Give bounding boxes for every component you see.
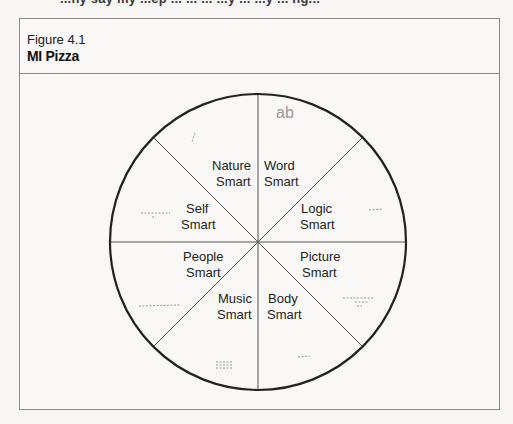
word-icon: ab (276, 104, 294, 121)
svg-text:Smart: Smart (300, 217, 335, 232)
svg-text:Smart: Smart (302, 265, 337, 280)
logic-icon (369, 209, 383, 210)
slice-music-smart: Music Smart (217, 291, 252, 322)
self-icon (141, 213, 170, 217)
svg-text:Picture: Picture (300, 249, 340, 264)
slice-people-smart: People Smart (183, 249, 223, 280)
picture-icon (343, 298, 375, 306)
svg-text:Smart: Smart (267, 307, 302, 322)
slice-word-smart: Word Smart (264, 158, 299, 189)
svg-text:Nature: Nature (212, 158, 251, 173)
svg-text:Smart: Smart (217, 307, 252, 322)
slice-body-smart: Body Smart (267, 291, 302, 322)
svg-text:Logic: Logic (301, 201, 333, 216)
music-icon (216, 362, 232, 368)
nature-icon (192, 133, 195, 142)
svg-text:Smart: Smart (264, 174, 299, 189)
svg-text:People: People (183, 249, 223, 264)
slice-self-smart: Self Smart (181, 201, 216, 232)
svg-text:Self: Self (186, 201, 209, 216)
svg-text:Smart: Smart (186, 265, 221, 280)
slice-picture-smart: Picture Smart (300, 249, 340, 280)
svg-text:Body: Body (268, 291, 298, 306)
svg-text:Smart: Smart (181, 217, 216, 232)
svg-text:Word: Word (264, 158, 295, 173)
body-icon (298, 356, 310, 357)
slice-nature-smart: Nature Smart (212, 158, 251, 189)
slice-labels: Nature Smart Word Smart Logic Smart Pict… (181, 158, 340, 322)
svg-text:ab: ab (276, 104, 294, 121)
svg-text:Music: Music (218, 291, 252, 306)
faint-slice-icons: ab (139, 104, 383, 368)
mi-pizza-diagram: ab Nature Smart Word Smart Logic Smart P… (0, 0, 513, 424)
slice-dividers (110, 94, 406, 390)
slice-logic-smart: Logic Smart (300, 201, 335, 232)
people-icon (139, 305, 180, 306)
svg-text:Smart: Smart (216, 174, 251, 189)
